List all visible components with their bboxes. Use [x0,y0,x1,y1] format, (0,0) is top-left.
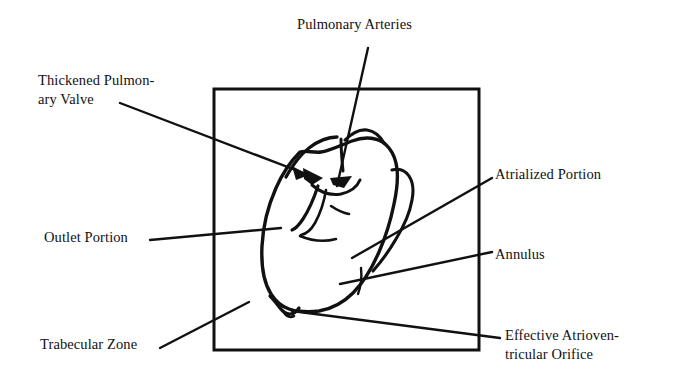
label-effective-atrioventricular-orifice: Effective Atrioven- tricular Orifice [505,326,619,364]
label-annulus: Annulus [495,245,545,264]
label-trabecular-zone: Trabecular Zone [40,335,137,354]
label-pulmonary-arteries: Pulmonary Arteries [297,15,412,34]
label-outlet-portion: Outlet Portion [44,228,128,247]
label-thickened-pulmonary-valve: Thickened Pulmon- ary Valve [38,71,154,109]
label-atrialized-portion: Atrialized Portion [495,165,601,184]
